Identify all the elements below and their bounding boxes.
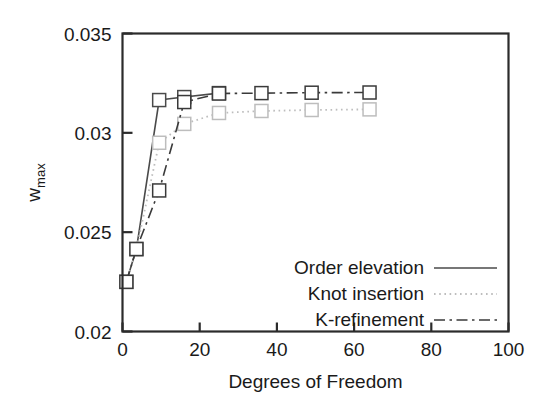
data-point-marker <box>305 103 318 116</box>
tick-label-layer: 0204060801000.020.0250.030.035 <box>64 24 524 360</box>
y-tick-label: 0.035 <box>64 24 112 45</box>
data-point-marker <box>178 96 191 109</box>
x-tick-label: 60 <box>344 339 365 360</box>
x-tick-label: 0 <box>117 339 128 360</box>
y-axis-label: wmax <box>23 163 48 203</box>
x-axis-label: Degrees of Freedom <box>228 371 402 392</box>
chart-canvas: 0204060801000.020.0250.030.035 Degrees o… <box>0 0 555 415</box>
x-tick-label: 40 <box>266 339 287 360</box>
x-tick-label: 100 <box>493 339 525 360</box>
legend-label-2: Knot insertion <box>308 283 424 304</box>
data-point-marker <box>213 87 226 100</box>
data-point-marker <box>153 94 166 107</box>
legend: Order elevationKnot insertionK-refinemen… <box>294 257 497 330</box>
y-tick-label: 0.02 <box>75 322 112 343</box>
data-point-marker <box>130 243 143 256</box>
svg-text:wmax: wmax <box>23 163 48 203</box>
x-tick-label: 80 <box>421 339 442 360</box>
data-point-marker <box>305 86 318 99</box>
x-tick-label: 20 <box>189 339 210 360</box>
data-point-marker <box>213 106 226 119</box>
chart-figure: 0204060801000.020.0250.030.035 Degrees o… <box>0 0 555 415</box>
y-tick-label: 0.03 <box>75 123 112 144</box>
y-tick-label: 0.025 <box>64 222 112 243</box>
data-point-marker <box>153 136 166 149</box>
data-point-marker <box>363 86 376 99</box>
legend-label-1: Order elevation <box>294 257 424 278</box>
data-point-marker <box>255 104 268 117</box>
legend-label-3: K-refinement <box>315 309 424 330</box>
data-point-marker <box>363 103 376 116</box>
data-point-marker <box>255 87 268 100</box>
data-point-marker <box>153 184 166 197</box>
series-order-elevation <box>120 87 226 289</box>
data-point-marker <box>178 117 191 130</box>
